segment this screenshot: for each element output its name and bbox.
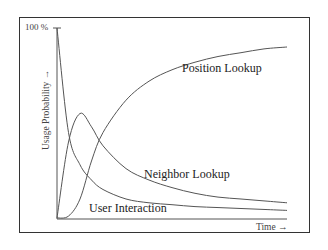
x-axis-label: Time → [256, 222, 288, 232]
y-axis-label: Usage Probability → [41, 70, 51, 150]
label-user-interaction: User Interaction [89, 201, 167, 216]
label-neighbor-lookup: Neighbor Lookup [144, 167, 230, 182]
y-tick-label: 100 % [25, 22, 48, 32]
series-user-interaction [57, 28, 287, 210]
label-position-lookup: Position Lookup [182, 61, 262, 76]
